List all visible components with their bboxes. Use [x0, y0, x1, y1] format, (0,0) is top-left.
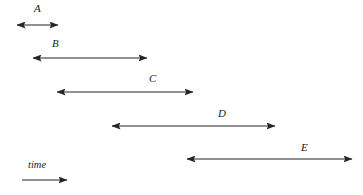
time-axis-label: time [28, 160, 46, 171]
interval-label-b: B [52, 38, 59, 49]
interval-label-c: C [149, 73, 156, 84]
diagram-canvas: A B C D E time [0, 0, 363, 195]
interval-label-a: A [34, 3, 41, 14]
timeline-diagram-svg [0, 0, 363, 195]
interval-label-e: E [301, 142, 308, 153]
interval-label-d: D [218, 108, 226, 119]
